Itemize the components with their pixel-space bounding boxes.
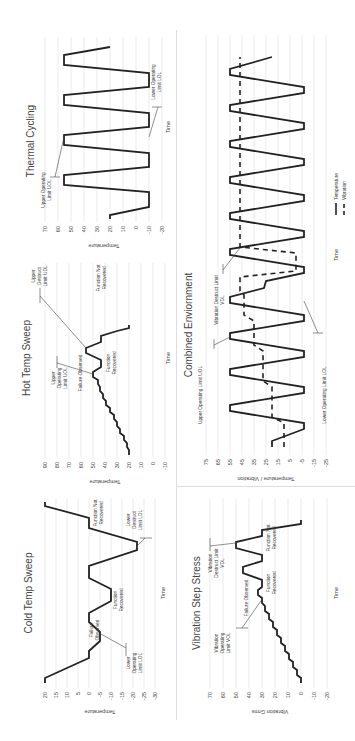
- svg-text:10: 10: [64, 692, 70, 698]
- combined-environment-chart: Combined Enviornment 75 65 55 45 35 25 1…: [178, 30, 355, 485]
- svg-text:-15: -15: [311, 459, 317, 467]
- svg-text:-10: -10: [108, 692, 114, 700]
- svg-text:30: 30: [259, 692, 265, 698]
- svg-text:0: 0: [133, 226, 139, 229]
- svg-text:10: 10: [120, 226, 126, 232]
- svg-text:-20: -20: [130, 692, 136, 700]
- uol-annotation: Upper Operating Limit UOL: [198, 366, 203, 424]
- svg-text:Destruct Limit: Destruct Limit: [214, 548, 219, 578]
- svg-text:-25: -25: [141, 692, 147, 700]
- y-axis-ticks: 70 60 50 40 30 20 10 0 -10 -20: [207, 692, 330, 700]
- svg-text:45: 45: [239, 459, 245, 465]
- svg-text:40: 40: [102, 462, 108, 468]
- lol-annotation: Lower Operating Limit LOL: [151, 64, 162, 100]
- svg-text:Function Not: Function Not: [266, 524, 271, 552]
- svg-text:Upper Operating: Upper Operating: [41, 172, 46, 208]
- svg-text:-10: -10: [162, 462, 168, 470]
- svg-text:Recovered: Recovered: [119, 588, 124, 612]
- svg-text:60: 60: [78, 462, 84, 468]
- ldl-annotation: Lower Destruct Limit LDL: [126, 510, 143, 531]
- y-axis-label: Temperature / Vibration: [237, 476, 294, 482]
- x-axis-label: Time: [165, 352, 171, 364]
- svg-text:-15: -15: [119, 692, 125, 700]
- svg-text:Function Not: Function Not: [93, 499, 98, 527]
- svg-text:70: 70: [207, 692, 213, 698]
- svg-text:70: 70: [42, 226, 48, 232]
- svg-text:10: 10: [138, 462, 144, 468]
- cold-temp-sweep-panel: Cold Temp Sweep 20 15 10 5 0 -5 -10 -15 …: [0, 490, 175, 718]
- svg-text:-20: -20: [324, 692, 330, 700]
- x-axis-label: Time: [333, 587, 339, 599]
- svg-text:60: 60: [220, 692, 226, 698]
- vdl-annotation: Vibration Destruct Limit VDL: [214, 275, 225, 325]
- svg-text:30: 30: [94, 226, 100, 232]
- legend-vibration-label: Vibration: [342, 181, 347, 200]
- svg-text:Recovered: Recovered: [272, 526, 277, 550]
- column-divider: [176, 30, 177, 720]
- svg-text:Limit UOL: Limit UOL: [63, 367, 68, 389]
- svg-text:20: 20: [42, 692, 48, 698]
- row-divider: [177, 486, 355, 487]
- svg-text:40: 40: [81, 226, 87, 232]
- lol-annotation: Lower Operating Limit LOL: [322, 366, 327, 424]
- svg-text:Vibration: Vibration: [208, 553, 213, 572]
- chart-title: Combined Enviornment: [183, 273, 194, 378]
- svg-text:Function: Function: [113, 590, 118, 609]
- svg-text:-10: -10: [146, 226, 152, 234]
- svg-text:Limit LOL: Limit LOL: [157, 71, 162, 92]
- legend-temperature-label: Temperature: [334, 173, 339, 200]
- cold-temp-sweep-chart: Cold Temp Sweep 20 15 10 5 0 -5 -10 -15 …: [0, 490, 175, 718]
- svg-text:15: 15: [275, 459, 281, 465]
- vibration-step-stress-chart: Vibration Step Stress 70 60 50 40 30 20 …: [178, 490, 355, 718]
- function-not-recovered-label: Function Not Recovered: [96, 264, 107, 292]
- gridlines: [45, 37, 162, 222]
- svg-text:10: 10: [285, 692, 291, 698]
- svg-text:90: 90: [42, 462, 48, 468]
- uol-annotation: Upper Operating Limit UOL: [51, 367, 68, 389]
- svg-text:0: 0: [86, 692, 92, 695]
- svg-text:Function: Function: [266, 573, 271, 592]
- vol-annotation: Vibration Operating Limit VOL: [214, 632, 231, 653]
- svg-text:VDL: VDL: [220, 558, 225, 568]
- svg-text:80: 80: [54, 462, 60, 468]
- legend: Temperature Vibration: [334, 173, 347, 215]
- failure-observed-label: Failure Observed: [89, 619, 100, 640]
- svg-text:20: 20: [107, 226, 113, 232]
- svg-text:20: 20: [272, 692, 278, 698]
- x-axis-label: Time: [165, 121, 171, 133]
- failure-observed-label: Failure Observed: [78, 354, 83, 391]
- vibration-step-stress-panel: Vibration Step Stress 70 60 50 40 30 20 …: [178, 490, 355, 718]
- svg-text:Operating: Operating: [57, 367, 62, 388]
- svg-text:Lower: Lower: [126, 513, 131, 526]
- svg-text:VDL: VDL: [220, 295, 225, 305]
- udl-annotation: Upper Destruct Limit UDL: [31, 265, 48, 286]
- svg-text:Limit LDL: Limit LDL: [138, 510, 143, 531]
- function-not-recovered-label: Function Not Recovered: [266, 524, 277, 552]
- svg-text:Lower Operating: Lower Operating: [151, 64, 156, 100]
- hot-temp-sweep-panel: Hot Temp Sweep 90 80 70 60 50 40 30 20 1…: [0, 252, 175, 488]
- svg-text:65: 65: [215, 459, 221, 465]
- gridlines: [206, 35, 326, 455]
- svg-text:Operating: Operating: [132, 652, 137, 673]
- y-axis-label: Vibration Grms: [251, 709, 288, 715]
- svg-text:Vibration: Vibration: [214, 633, 219, 652]
- svg-text:50: 50: [90, 462, 96, 468]
- svg-text:0: 0: [298, 692, 304, 695]
- svg-text:-30: -30: [152, 692, 158, 700]
- svg-text:Recovered: Recovered: [99, 501, 104, 525]
- function-recovered-label: Function Recovered: [266, 571, 277, 595]
- svg-text:Upper: Upper: [31, 269, 36, 282]
- svg-text:40: 40: [246, 692, 252, 698]
- svg-text:Recovered: Recovered: [272, 571, 277, 595]
- temperature-line: [86, 325, 129, 455]
- y-axis-label: Temperature: [89, 243, 120, 249]
- svg-text:Vibration Destruct Limit: Vibration Destruct Limit: [214, 275, 219, 325]
- chart-title: Thermal Cycling: [25, 105, 36, 177]
- svg-text:Destruct: Destruct: [132, 510, 137, 529]
- svg-text:30: 30: [114, 462, 120, 468]
- chart-title: Hot Temp Sweep: [21, 320, 32, 396]
- svg-text:Function: Function: [106, 353, 111, 372]
- chart-title: Cold Temp Sweep: [23, 552, 34, 633]
- svg-text:Limit UOL: Limit UOL: [47, 179, 52, 201]
- svg-text:-5: -5: [299, 459, 305, 464]
